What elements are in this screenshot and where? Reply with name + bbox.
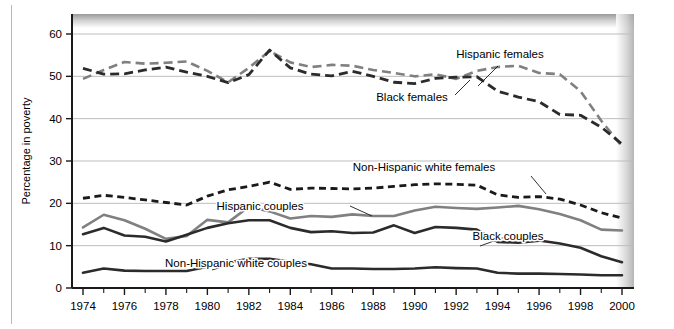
annotation-label-black-females: Black females	[376, 91, 448, 103]
x-tick-label: 1990	[402, 300, 428, 312]
annotation-label-black-couples: Black couples	[473, 230, 544, 242]
annotation-label-non-hispanic-white-couples: Non-Hispanic white couples	[165, 257, 307, 269]
x-tick-label: 1998	[568, 300, 594, 312]
chart-page: 0102030405060 19741976197819801982198419…	[0, 0, 674, 329]
x-tick-label: 2000	[609, 300, 635, 312]
plot-area-background	[72, 14, 634, 288]
x-tick-label: 1994	[485, 300, 511, 312]
annotation-label-non-hispanic-white-females: Non-Hispanic white females	[353, 161, 496, 173]
y-tick-label: 50	[49, 70, 62, 82]
x-tick-label: 1992	[443, 300, 469, 312]
annotation-label-hispanic-females: Hispanic females	[456, 48, 544, 60]
y-axis-ticks: 0102030405060	[49, 28, 72, 294]
y-axis-label: Percentage in poverty	[20, 97, 32, 205]
x-tick-label: 1976	[112, 300, 138, 312]
poverty-line-chart: 0102030405060 19741976197819801982198419…	[0, 0, 674, 329]
annotation-label-hispanic-couples: Hispanic couples	[217, 200, 304, 212]
x-tick-label: 1978	[153, 300, 179, 312]
x-tick-label: 1982	[236, 300, 262, 312]
y-tick-label: 60	[49, 28, 62, 40]
top-shade-band	[72, 14, 634, 28]
right-shade-band	[616, 14, 634, 288]
x-tick-label: 1974	[70, 300, 96, 312]
x-tick-label: 1980	[195, 300, 221, 312]
x-tick-label: 1984	[278, 300, 304, 312]
x-tick-label: 1996	[526, 300, 552, 312]
x-tick-label: 1986	[319, 300, 345, 312]
y-tick-label: 30	[49, 155, 62, 167]
y-tick-label: 0	[56, 282, 62, 294]
x-tick-label: 1988	[360, 300, 386, 312]
y-tick-label: 20	[49, 197, 62, 209]
y-tick-label: 10	[49, 240, 62, 252]
y-tick-label: 40	[49, 113, 62, 125]
x-axis-ticks: 1974197619781980198219841986198819901992…	[70, 288, 635, 312]
